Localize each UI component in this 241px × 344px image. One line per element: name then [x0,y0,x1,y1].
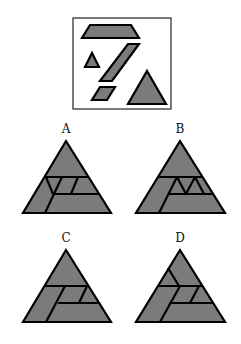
trapezoid-piece [82,25,139,38]
option-a[interactable]: A [23,122,111,213]
option-c[interactable]: C [23,231,111,322]
option-b[interactable]: B [136,122,225,213]
option-b-label: B [176,122,185,136]
option-d[interactable]: D [136,231,225,322]
option-c-label: C [61,231,70,245]
option-a-label: A [61,122,71,136]
puzzle-canvas: A B C D [0,0,241,344]
prompt-panel [73,18,171,109]
option-d-label: D [175,231,185,245]
